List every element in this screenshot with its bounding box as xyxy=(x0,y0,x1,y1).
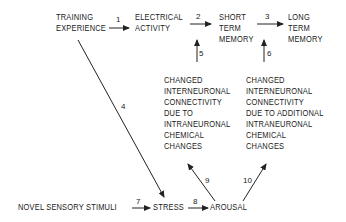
node-changed-connectivity-additional: CHANGED INTERNEURONAL CONNECTIVITY DUE T… xyxy=(246,75,324,152)
edge-label-10: 10 xyxy=(243,176,252,185)
edge-label-7: 7 xyxy=(136,197,140,206)
node-short-term-memory: SHORT TERM MEMORY xyxy=(219,12,254,45)
node-stress: STRESS xyxy=(153,202,184,213)
node-arousal: AROUSAL xyxy=(210,202,247,213)
edge-label-6: 6 xyxy=(267,49,271,58)
edge-label-8: 8 xyxy=(193,197,197,206)
edge-label-2: 2 xyxy=(196,12,200,21)
node-changed-connectivity-intraneuronal: CHANGED INTERNEURONAL CONNECTIVITY DUE T… xyxy=(164,75,230,152)
edge-label-3: 3 xyxy=(265,12,269,21)
arrow-4 xyxy=(78,40,164,197)
arrow-9 xyxy=(188,164,215,201)
edge-label-5: 5 xyxy=(199,49,203,58)
node-novel-sensory-stimuli: NOVEL SENSORY STIMULI xyxy=(18,202,117,213)
node-electrical-activity: ELECTRICAL ACTIVITY xyxy=(135,12,183,34)
node-training-experience: TRAINING EXPERIENCE xyxy=(56,12,106,34)
edge-label-1: 1 xyxy=(116,15,120,24)
edge-label-9: 9 xyxy=(205,176,209,185)
node-long-term-memory: LONG TERM MEMORY xyxy=(288,12,323,45)
edge-label-4: 4 xyxy=(121,102,125,111)
